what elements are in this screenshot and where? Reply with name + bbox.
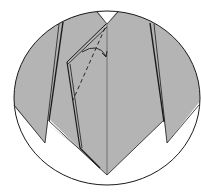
origami-diagram — [0, 0, 201, 192]
diagram-canvas — [0, 0, 201, 192]
